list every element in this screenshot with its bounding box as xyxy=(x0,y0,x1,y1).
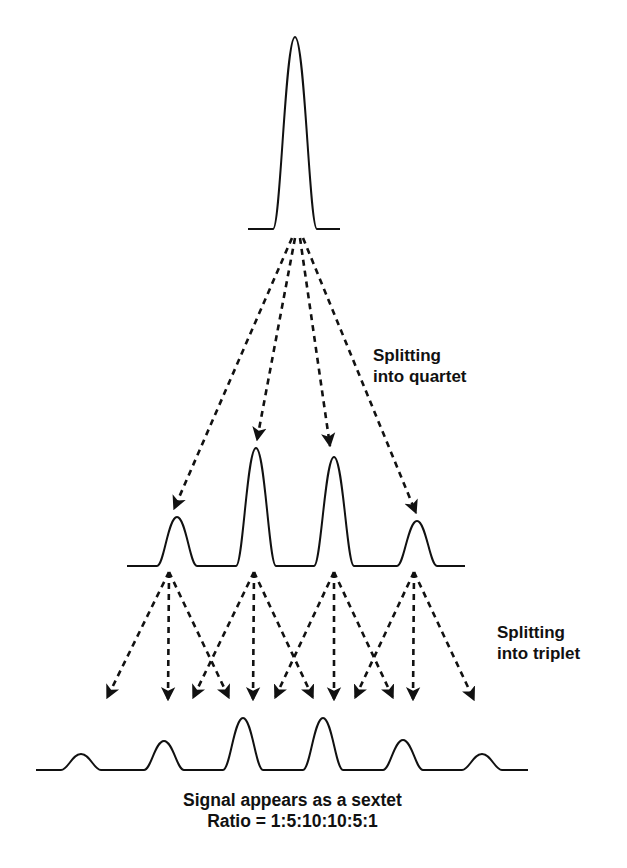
dashed-arrow-icon xyxy=(174,238,292,509)
triplet-splitting-arrows xyxy=(107,572,474,700)
dashed-arrow-icon xyxy=(193,572,254,698)
dashed-arrow-icon xyxy=(253,572,254,700)
dashed-arrow-icon xyxy=(168,572,169,700)
singlet-peak-line xyxy=(248,37,340,229)
triplet-label-line2: into triplet xyxy=(497,643,580,664)
sextet-peaks-line xyxy=(36,718,528,770)
dashed-arrow-icon xyxy=(169,572,229,698)
quartet-label-line2: into quartet xyxy=(373,366,467,387)
dashed-arrow-icon xyxy=(107,572,169,698)
singlet-peak-spectrum xyxy=(248,37,340,229)
splitting-into-quartet-label: Splitting into quartet xyxy=(373,345,467,387)
sextet-caption: Signal appears as a sextet Ratio = 1:5:1… xyxy=(0,790,585,832)
splitting-into-triplet-label: Splitting into triplet xyxy=(497,622,580,664)
dashed-arrow-icon xyxy=(414,572,474,700)
sextet-peaks-spectrum xyxy=(36,718,528,770)
dashed-arrow-icon xyxy=(257,238,295,440)
triplet-label-line1: Splitting xyxy=(497,622,580,643)
caption-ratio: Ratio = 1:5:10:10:5:1 xyxy=(0,811,585,832)
nmr-splitting-tree-diagram xyxy=(0,0,627,868)
dashed-arrow-icon xyxy=(413,572,414,700)
caption-line1: Signal appears as a sextet xyxy=(0,790,585,811)
quartet-label-line1: Splitting xyxy=(373,345,467,366)
